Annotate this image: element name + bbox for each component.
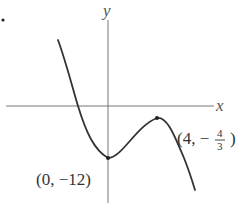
max-label-denominator: 3 <box>217 140 223 152</box>
x-axis-label: x <box>215 96 224 115</box>
cubic-graph: x y (0, −12) (4, − 4 3 ) <box>0 0 240 203</box>
cubic-curve <box>58 40 195 190</box>
local-maximum-point <box>155 116 159 120</box>
local-maximum-label: (4, − 4 3 ) <box>177 127 236 152</box>
max-label-prefix: (4, − <box>177 129 209 148</box>
y-axis-label: y <box>101 1 111 20</box>
max-label-numerator: 4 <box>217 127 223 139</box>
local-minimum-label: (0, −12) <box>36 170 91 189</box>
max-label-suffix: ) <box>230 129 236 148</box>
local-minimum-point <box>106 156 110 160</box>
figure-marker-dot <box>1 18 4 21</box>
